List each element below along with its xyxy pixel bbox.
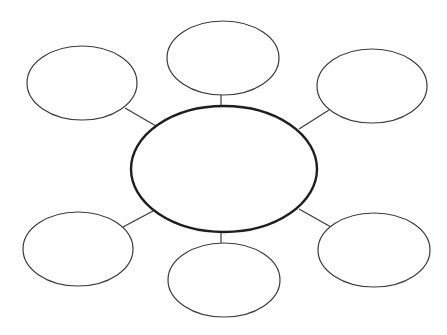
bubble-map-diagram [0, 0, 447, 335]
connector-bottom-left [123, 211, 153, 227]
connector-top-left [125, 108, 156, 126]
connector-top-right [299, 110, 329, 129]
node-top-center [167, 21, 279, 95]
node-bottom-right [318, 213, 430, 287]
center-node-ellipse [131, 106, 317, 232]
node-ellipse [317, 49, 427, 123]
center-node-group [131, 106, 317, 232]
connector-bottom-right [299, 209, 331, 227]
node-ellipse [167, 21, 279, 95]
node-bottom-center [168, 243, 280, 317]
node-bottom-left [23, 212, 133, 286]
node-ellipse [23, 212, 133, 286]
node-top-left [27, 46, 137, 120]
node-top-right [317, 49, 427, 123]
node-ellipse [27, 46, 137, 120]
node-ellipse [168, 243, 280, 317]
node-ellipse [318, 213, 430, 287]
